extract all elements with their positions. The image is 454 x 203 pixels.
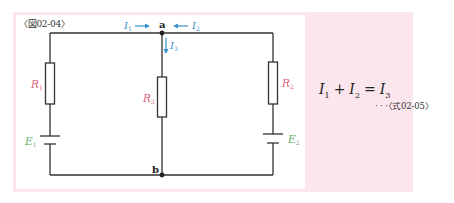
source-e1-label: E1 (24, 135, 37, 148)
resistor-r2 (269, 62, 278, 104)
eq-plus: + (334, 81, 346, 97)
current-i1-label: I1 (123, 20, 132, 32)
node-b-label: b (152, 164, 159, 175)
current-i3-label: I3 (169, 40, 178, 52)
node-a-dot (160, 31, 165, 36)
resistor-r1-label: R1 (30, 78, 43, 91)
resistor-r2-label: R2 (281, 77, 294, 90)
current-i3-arrow-icon (164, 38, 169, 54)
battery-e2 (263, 134, 283, 143)
resistor-r3-label: R3 (142, 92, 155, 105)
current-i2-arrow-icon (173, 24, 188, 29)
node-b-dot (160, 173, 165, 178)
current-i2-label: I2 (191, 20, 200, 32)
current-i1-arrow-icon (135, 24, 150, 29)
source-e2-label: E2 (287, 133, 300, 146)
eq-term-2: I2 (349, 81, 360, 97)
node-a-label: a (159, 19, 166, 30)
equation-reference: · · ·〈式02-05〉 (375, 99, 433, 111)
figure-label: 〈図02-04〉 (19, 17, 70, 30)
kcl-equation: I1+I2=I3 (319, 81, 390, 100)
resistor-r1 (46, 63, 55, 104)
eq-equals: = (364, 81, 376, 97)
battery-e1 (40, 136, 60, 144)
resistor-r3 (158, 77, 167, 117)
eq-term-1: I1 (319, 81, 330, 97)
eq-term-3: I3 (380, 81, 391, 97)
